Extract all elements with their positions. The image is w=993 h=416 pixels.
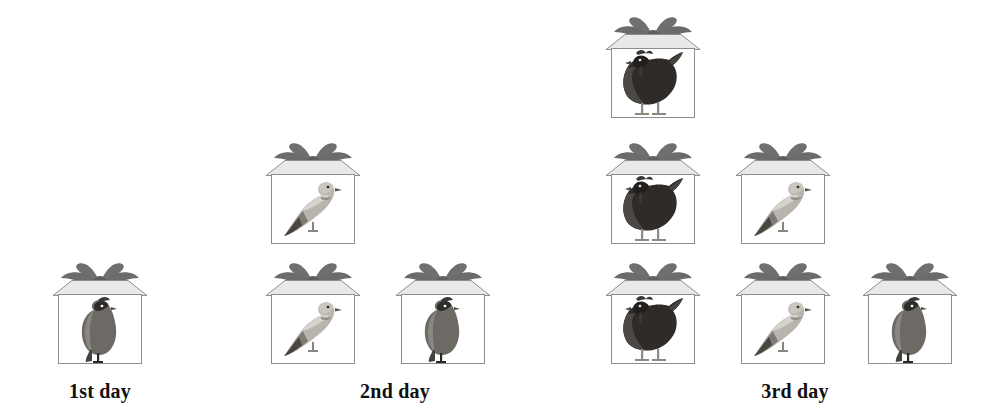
turtle-dove-bird-icon <box>271 294 355 364</box>
day-label-1st-day: 1st day <box>45 380 155 403</box>
gift-box-turtle-dove[interactable] <box>735 142 831 244</box>
gift-box-french-hen[interactable] <box>605 16 701 118</box>
day-label-3rd-day: 3rd day <box>715 380 875 403</box>
turtle-dove-bird-icon <box>741 294 825 364</box>
gift-box-partridge[interactable] <box>52 262 148 364</box>
figure-canvas: 1st day 2nd day <box>0 0 993 416</box>
gift-box-turtle-dove[interactable] <box>735 262 831 364</box>
gift-box-french-hen[interactable] <box>605 142 701 244</box>
gift-box-partridge[interactable] <box>862 262 958 364</box>
gift-box-turtle-dove[interactable] <box>265 142 361 244</box>
partridge-bird-icon <box>58 294 142 364</box>
french-hen-bird-icon <box>611 294 695 364</box>
partridge-bird-icon <box>868 294 952 364</box>
gift-box-french-hen[interactable] <box>605 262 701 364</box>
french-hen-bird-icon <box>611 48 695 118</box>
turtle-dove-bird-icon <box>741 174 825 244</box>
gift-box-partridge[interactable] <box>395 262 491 364</box>
day-label-2nd-day: 2nd day <box>315 380 475 403</box>
turtle-dove-bird-icon <box>271 174 355 244</box>
french-hen-bird-icon <box>611 174 695 244</box>
partridge-bird-icon <box>401 294 485 364</box>
gift-box-turtle-dove[interactable] <box>265 262 361 364</box>
